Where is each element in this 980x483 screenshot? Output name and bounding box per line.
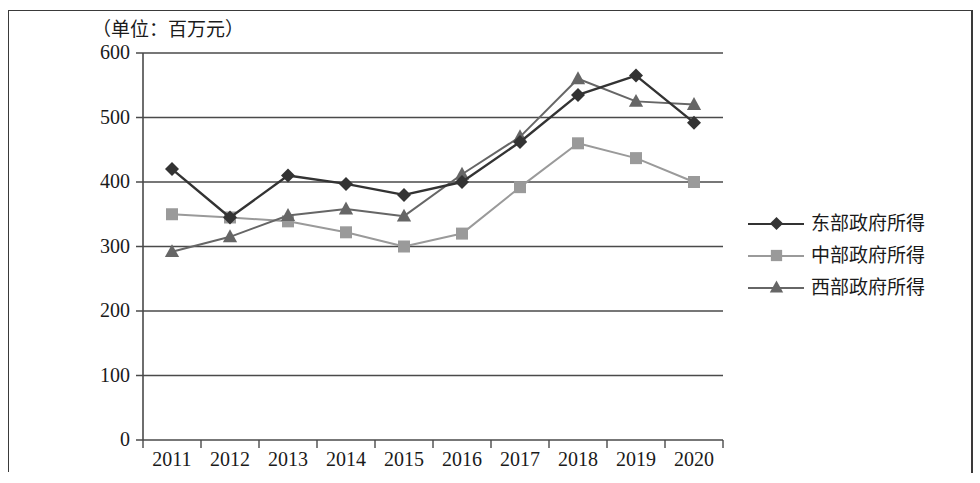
y-axis-tick-label: 0	[70, 429, 130, 449]
x-axis-tick-label: 2017	[488, 449, 552, 469]
x-axis-tick-label: 2018	[546, 449, 610, 469]
legend-label: 东部政府所得	[811, 208, 925, 240]
legend-label: 西部政府所得	[811, 272, 925, 304]
diamond-marker	[397, 188, 411, 202]
square-marker	[340, 226, 352, 238]
series-line	[172, 79, 694, 252]
legend-marker-triangle-icon	[748, 278, 804, 298]
triangle-marker	[770, 280, 783, 292]
y-axis-tick-label: 300	[70, 236, 130, 256]
square-marker	[572, 137, 584, 149]
y-axis-tick-label: 500	[70, 107, 130, 127]
x-axis-tick-label: 2015	[372, 449, 436, 469]
x-axis-tick-label: 2012	[198, 449, 262, 469]
square-marker	[771, 250, 782, 261]
square-marker	[166, 208, 178, 220]
legend-marker-square-icon	[748, 246, 804, 266]
square-marker	[398, 241, 410, 253]
x-axis-tick-label: 2020	[662, 449, 726, 469]
square-marker	[456, 228, 468, 240]
y-axis-tick-label: 400	[70, 171, 130, 191]
legend-item-square: 中部政府所得	[748, 240, 925, 272]
triangle-glyph-icon	[769, 280, 784, 295]
y-axis-tick-label: 200	[70, 300, 130, 320]
diamond-marker	[770, 217, 783, 230]
y-axis-tick-label: 600	[70, 42, 130, 62]
triangle-marker	[571, 71, 585, 84]
diamond-glyph-icon	[769, 216, 784, 231]
diamond-marker	[339, 177, 353, 191]
x-axis-tick-label: 2019	[604, 449, 668, 469]
y-axis-tick-label: 100	[70, 365, 130, 385]
square-glyph-icon	[769, 248, 784, 263]
x-axis-tick-label: 2016	[430, 449, 494, 469]
square-marker	[630, 152, 642, 164]
x-axis-tick-label: 2014	[314, 449, 378, 469]
legend-item-diamond: 东部政府所得	[748, 208, 925, 240]
legend-item-triangle: 西部政府所得	[748, 272, 925, 304]
square-marker	[514, 181, 526, 193]
legend-marker-diamond-icon	[748, 214, 804, 234]
x-axis-tick-label: 2013	[256, 449, 320, 469]
square-marker	[688, 176, 700, 188]
x-axis-tick-label: 2011	[140, 449, 204, 469]
triangle-marker	[339, 202, 353, 215]
chart-legend: 东部政府所得中部政府所得西部政府所得	[748, 208, 925, 304]
legend-label: 中部政府所得	[811, 240, 925, 272]
